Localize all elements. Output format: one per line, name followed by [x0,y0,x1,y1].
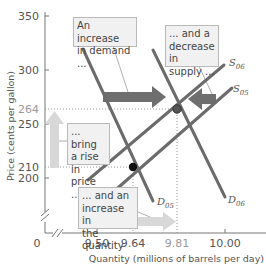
x-tick-9-64: 9.64 [121,237,146,250]
demand-shift-arrow [103,86,166,108]
x-tick-9-81: 9.81 [165,237,190,250]
y-tick-264: 264 [18,103,39,116]
label-s06: S06 [229,57,245,71]
x-tick-10-00: 10.00 [209,237,241,250]
label-d06: D06 [227,194,245,208]
y-tick-350: 350 [18,10,39,23]
x-axis [45,229,266,237]
y-tick-300: 300 [18,64,39,77]
equilibrium-point-new [173,105,181,113]
x-axis-title: Quantity (millions of barrels per day) [89,253,264,264]
y-tick-200: 200 [18,172,39,185]
label-d05: D05 [156,196,174,210]
equilibrium-point-initial [129,163,137,171]
note-quantity-increase: ... and an increase in the quantity [78,187,138,229]
label-s05: S05 [233,83,249,97]
note-supply-decrease: ... and a decrease in supply ... [165,25,219,67]
quantity-increase-arrow [133,212,176,231]
x-tick-0: 0 [34,237,41,250]
y-tick-250: 250 [18,118,39,131]
y-axis-title: Price (cents per gallon) [5,71,16,181]
note-price-rise: ... bring a rise in price ... [67,123,110,165]
note-demand-increase: An increase in demand ... [73,17,137,47]
price-rise-arrow [45,111,64,168]
